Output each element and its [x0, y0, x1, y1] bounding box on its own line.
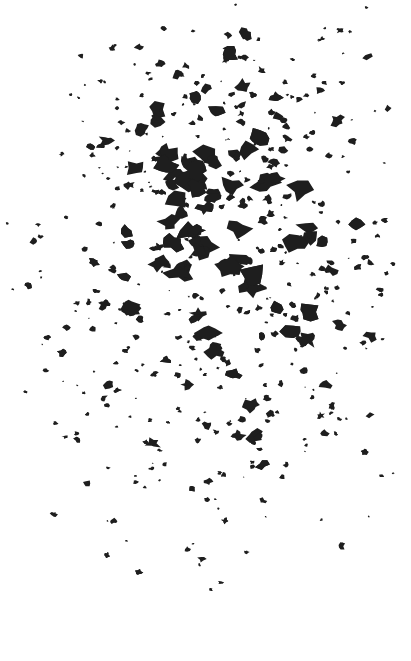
ink-blot-texture	[0, 0, 411, 661]
ink-texture-image	[0, 0, 411, 661]
